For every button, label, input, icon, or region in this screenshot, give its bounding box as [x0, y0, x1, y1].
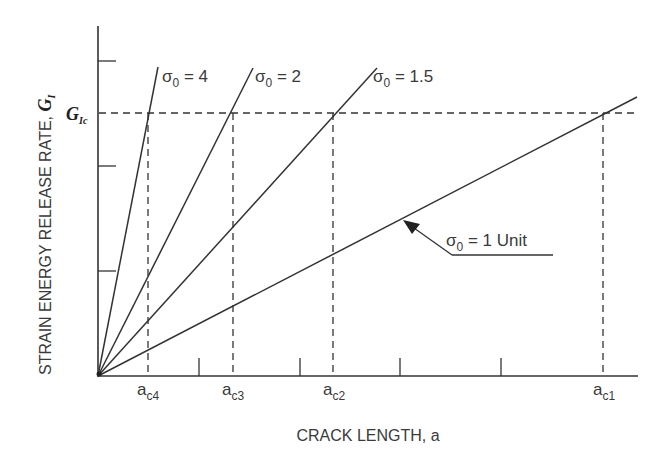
chart: σ0 = 4 σ0 = 2 σ0 = 1.5 σ0 = 1 Unit GIc a…: [0, 0, 664, 458]
arrow-head-icon: [403, 220, 420, 234]
series-sigma-1: [98, 97, 637, 376]
x-axis-label: CRACK LENGTH, a: [296, 427, 439, 444]
origin-point: [97, 372, 102, 377]
label-sigma-4: σ0 = 4: [162, 67, 208, 90]
series-sigma-2: [98, 68, 253, 376]
label-sigma-2: σ0 = 2: [255, 67, 301, 90]
gic-label: GIc: [66, 104, 88, 126]
y-axis-label: STRAIN ENERGY RELEASE RATE, GI: [35, 94, 57, 375]
label-ac3: ac3: [222, 380, 244, 403]
label-ac4: ac4: [137, 380, 159, 403]
label-ac1: ac1: [593, 380, 615, 403]
series-sigma-1-5: [98, 68, 377, 376]
label-sigma-1: σ0 = 1 Unit: [446, 231, 527, 254]
label-ac2: ac2: [323, 380, 345, 403]
label-sigma-1-5: σ0 = 1.5: [373, 67, 433, 90]
